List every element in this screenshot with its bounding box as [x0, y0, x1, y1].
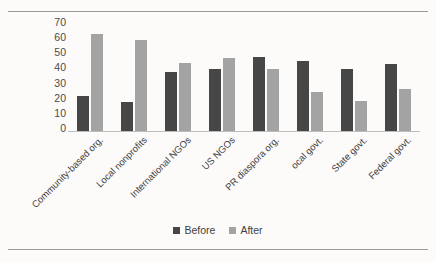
chart-legend: BeforeAfter	[0, 225, 436, 236]
y-axis-tick-label: 10	[54, 108, 66, 119]
bar-before[interactable]	[297, 61, 309, 131]
y-axis-tick-label: 40	[54, 62, 66, 73]
bar-group	[341, 25, 367, 131]
bar-after[interactable]	[223, 58, 235, 131]
legend-item[interactable]: Before	[173, 225, 215, 236]
bar-before[interactable]	[77, 96, 89, 131]
y-axis-tick-label: 20	[54, 93, 66, 104]
bar-before[interactable]	[385, 64, 397, 131]
bar-before[interactable]	[341, 69, 353, 131]
bar-after[interactable]	[267, 69, 279, 131]
bar-after[interactable]	[179, 63, 191, 131]
bar-before[interactable]	[209, 69, 221, 131]
bar-group	[165, 25, 191, 131]
page-rule-bottom	[8, 249, 428, 250]
y-axis-tick-label: 60	[54, 32, 66, 43]
x-axis-label: US NGOs	[200, 135, 237, 172]
x-axis-label: Community-based org.	[30, 135, 105, 210]
y-axis-tick-label: 30	[54, 78, 66, 89]
legend-item[interactable]: After	[229, 225, 262, 236]
legend-swatch-icon	[229, 227, 236, 234]
bar-before[interactable]	[165, 72, 177, 131]
bar-group	[209, 25, 235, 131]
x-axis-label: Federal govt.	[367, 135, 413, 181]
x-axis-category-labels: Community-based org.Local nonprofitsInte…	[0, 131, 436, 221]
bar-after[interactable]	[91, 34, 103, 131]
legend-swatch-icon	[173, 227, 180, 234]
page-rule-top	[8, 11, 428, 12]
bar-after[interactable]	[135, 40, 147, 131]
legend-label: After	[240, 225, 262, 236]
bar-group	[121, 25, 147, 131]
y-axis-tick-label: 70	[54, 17, 66, 28]
bar-after[interactable]	[311, 92, 323, 131]
bar-group	[253, 25, 279, 131]
bar-group	[385, 25, 411, 131]
bar-after[interactable]	[355, 101, 367, 131]
x-axis-label: ocal govt.	[289, 135, 324, 170]
x-axis-label: State govt.	[330, 135, 369, 174]
bar-group	[297, 25, 323, 131]
bar-after[interactable]	[399, 89, 411, 131]
y-axis: 706050403020100	[44, 17, 66, 139]
plot-area	[68, 25, 420, 131]
bar-before[interactable]	[121, 102, 133, 131]
chart-figure: 706050403020100 Community-based org.Loca…	[0, 0, 436, 262]
legend-label: Before	[184, 225, 215, 236]
bar-group	[77, 25, 103, 131]
y-axis-tick-label: 50	[54, 47, 66, 58]
bar-before[interactable]	[253, 57, 265, 131]
